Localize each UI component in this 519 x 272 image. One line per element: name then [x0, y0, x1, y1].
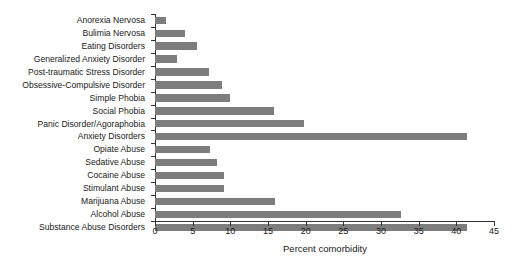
- y-axis-tick: [151, 66, 155, 67]
- bar: [155, 133, 467, 140]
- x-axis-tick-label: 35: [414, 226, 424, 236]
- bar: [155, 30, 185, 37]
- y-axis-tick: [151, 40, 155, 41]
- bar: [155, 68, 209, 75]
- bar: [155, 81, 222, 88]
- bar-row: [155, 182, 494, 195]
- bar-row: [155, 143, 494, 156]
- x-axis-tick-label: 45: [489, 226, 499, 236]
- x-axis-tick-label: 15: [263, 226, 273, 236]
- bar: [155, 120, 304, 127]
- bar: [155, 17, 166, 24]
- bar-row: [155, 14, 494, 27]
- bar-row: [155, 105, 494, 118]
- category-label: Cocaine Abuse: [0, 169, 150, 182]
- y-axis-tick: [151, 118, 155, 119]
- y-axis-tick: [151, 143, 155, 144]
- category-label: Anorexia Nervosa: [0, 14, 150, 27]
- bar: [155, 159, 217, 166]
- y-axis-tick: [151, 130, 155, 131]
- bar-row: [155, 208, 494, 221]
- bar: [155, 55, 177, 62]
- bar-row: [155, 118, 494, 131]
- y-axis-tick: [151, 156, 155, 157]
- y-axis-tick: [151, 92, 155, 93]
- bar: [155, 42, 197, 49]
- category-axis-labels: Anorexia NervosaBulimia NervosaEating Di…: [0, 14, 150, 221]
- category-label: Substance Abuse Disorders: [0, 221, 150, 234]
- x-axis-tick-label: 0: [152, 226, 157, 236]
- plot-area: [155, 14, 494, 221]
- y-axis-tick: [151, 79, 155, 80]
- category-label: Bulimia Nervosa: [0, 27, 150, 40]
- bar: [155, 146, 210, 153]
- y-axis-tick: [151, 182, 155, 183]
- category-label: Simple Phobia: [0, 92, 150, 105]
- category-label: Post-traumatic Stress Disorder: [0, 66, 150, 79]
- bar: [155, 185, 224, 192]
- bar: [155, 211, 401, 218]
- category-label: Alcohol Abuse: [0, 208, 150, 221]
- bar-row: [155, 169, 494, 182]
- y-axis-tick: [151, 195, 155, 196]
- category-label: Anxiety Disorders: [0, 130, 150, 143]
- x-axis-tick-labels: 051015202530354045: [155, 226, 495, 238]
- category-label: Marijuana Abuse: [0, 195, 150, 208]
- x-axis-tick-label: 20: [301, 226, 311, 236]
- bar-row: [155, 92, 494, 105]
- y-axis-tick: [151, 27, 155, 28]
- y-axis-tick: [151, 105, 155, 106]
- category-label: Obsessive-Compulsive Disorder: [0, 79, 150, 92]
- bar-row: [155, 66, 494, 79]
- bar: [155, 107, 274, 114]
- category-label: Panic Disorder/Agoraphobia: [0, 118, 150, 131]
- category-label: Generalized Anxiety Disorder: [0, 53, 150, 66]
- category-label: Social Phobia: [0, 105, 150, 118]
- bar-row: [155, 195, 494, 208]
- x-axis-tick-label: 10: [225, 226, 235, 236]
- bar: [155, 198, 275, 205]
- category-label: Eating Disorders: [0, 40, 150, 53]
- x-axis-title: Percent comorbidity: [155, 243, 495, 254]
- x-axis-tick-label: 40: [451, 226, 461, 236]
- comorbidity-bar-chart: Anorexia NervosaBulimia NervosaEating Di…: [0, 0, 519, 272]
- bar: [155, 94, 230, 101]
- y-axis-tick: [151, 208, 155, 209]
- x-axis-tick-label: 5: [190, 226, 195, 236]
- bar-row: [155, 53, 494, 66]
- category-label: Opiate Abuse: [0, 143, 150, 156]
- bar: [155, 172, 224, 179]
- bar-row: [155, 27, 494, 40]
- category-label: Stimulant Abuse: [0, 182, 150, 195]
- x-axis-tick-label: 25: [338, 226, 348, 236]
- bar-row: [155, 156, 494, 169]
- y-axis-tick: [151, 169, 155, 170]
- bar-row: [155, 130, 494, 143]
- y-axis-tick: [151, 53, 155, 54]
- x-axis-tick-label: 30: [376, 226, 386, 236]
- category-label: Sedative Abuse: [0, 156, 150, 169]
- bar-row: [155, 79, 494, 92]
- y-axis-tick: [151, 14, 155, 15]
- bar-row: [155, 40, 494, 53]
